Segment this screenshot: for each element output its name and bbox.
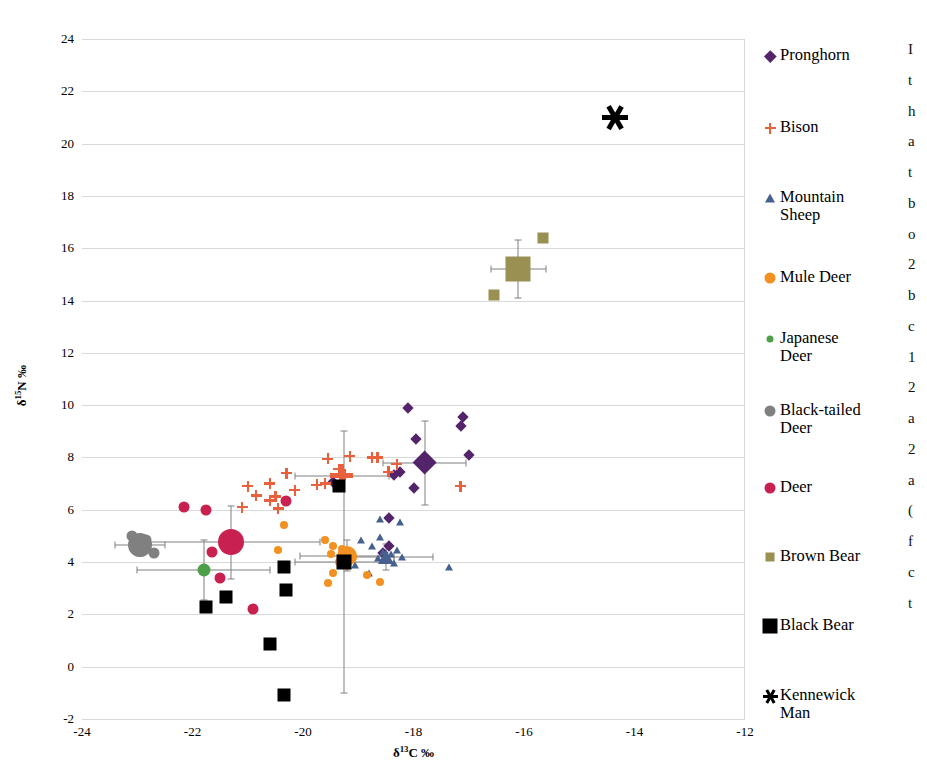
legend-label: Bison [780, 118, 819, 136]
body-text-line: 2 [908, 249, 927, 280]
data-point-mule-deer [324, 579, 332, 587]
data-point-mountain-sheep [398, 553, 406, 560]
data-point-mule-deer [329, 542, 337, 550]
data-point-mountain-sheep [396, 518, 404, 525]
error-bar-cap [319, 539, 320, 546]
error-bar-cap [200, 539, 207, 540]
gridline-y [82, 667, 745, 668]
data-point-mule-deer [321, 536, 329, 544]
data-point-mountain-sheep [445, 564, 453, 571]
data-point-deer [206, 546, 217, 557]
error-bar-cap [294, 559, 295, 566]
y-tick-label: 20 [61, 136, 74, 152]
legend-swatch [762, 616, 778, 635]
data-point-deer [179, 502, 190, 513]
gridline-y [82, 39, 745, 40]
mean-marker-japanese-deer [197, 563, 210, 576]
body-text-line: t [908, 588, 927, 619]
legend-item-japanese-deer[interactable]: Japanese Deer [762, 329, 839, 366]
body-text-line: 2 [908, 434, 927, 465]
gridline-y [82, 144, 745, 145]
marker-square [763, 619, 778, 634]
y-tick-label: 14 [61, 293, 74, 309]
body-text-line: c [908, 557, 927, 588]
legend-label: Pronghorn [780, 46, 850, 64]
legend-item-black-tailed-deer[interactable]: Black-tailed Deer [762, 401, 861, 438]
y-axis-ticks: 242220181614121086420-2 [38, 39, 74, 719]
legend-swatch [762, 118, 778, 137]
x-tick-label: -14 [626, 724, 643, 740]
legend-item-mountain-sheep[interactable]: Mountain Sheep [762, 188, 844, 225]
marker-circle [767, 336, 774, 343]
error-bar-cap [432, 553, 433, 560]
legend-label: Black-tailed Deer [780, 401, 861, 438]
gridline-y [82, 405, 745, 406]
y-tick-label: 2 [68, 606, 75, 622]
gridline-y [82, 614, 745, 615]
legend-swatch [762, 478, 778, 497]
legend-item-kennewick-man[interactable]: Kennewick Man [762, 686, 855, 723]
legend-label: Deer [780, 478, 812, 496]
legend-swatch [762, 329, 778, 348]
gridline-y [82, 248, 745, 249]
gridline-y [82, 457, 745, 458]
data-point-black-bear [200, 600, 213, 613]
data-point-mountain-sheep [357, 536, 365, 543]
marker-square [766, 553, 775, 562]
gridline-y [82, 562, 745, 563]
error-bar-cap [228, 505, 235, 506]
plot-right-border [744, 39, 745, 719]
data-point-black-bear [219, 591, 232, 604]
body-text-line: a [908, 126, 927, 157]
body-text-line: h [908, 96, 927, 127]
figure-root: δ15N ‰ 242220181614121086420-2 -24-22-20… [0, 0, 927, 782]
body-text-line: ( [908, 495, 927, 526]
plot-area [82, 39, 745, 719]
legend-item-deer[interactable]: Deer [762, 478, 812, 497]
legend-swatch [762, 686, 778, 705]
error-bar-cap [269, 566, 270, 573]
gridline-y [82, 719, 745, 720]
mean-marker-mountain-sheep [378, 550, 394, 564]
legend-swatch [762, 46, 778, 65]
marker-circle [765, 406, 776, 417]
legend-swatch [762, 268, 778, 287]
legend-item-mule-deer[interactable]: Mule Deer [762, 268, 851, 287]
legend-label: Brown Bear [780, 547, 860, 565]
gridline-y [82, 353, 745, 354]
data-point-mule-deer [363, 571, 371, 579]
body-text-line: 1 [908, 342, 927, 373]
data-point-black-bear [277, 561, 290, 574]
data-point-brown-bear [538, 232, 549, 243]
body-text-line: 2 [908, 372, 927, 403]
error-bar-cap [383, 459, 384, 466]
error-bar-cap [294, 472, 295, 479]
error-bar-cap [465, 459, 466, 466]
mean-marker-black-bear [337, 555, 352, 570]
gridline-y [82, 91, 745, 92]
gridline-y [82, 196, 745, 197]
legend-item-brown-bear[interactable]: Brown Bear [762, 547, 860, 566]
data-point-mule-deer [280, 521, 288, 529]
legend-swatch [762, 547, 778, 566]
y-tick-label: 0 [68, 659, 75, 675]
legend-item-pronghorn[interactable]: Pronghorn [762, 46, 850, 65]
x-axis-ticks: -24-22-20-18-16-14-12 [82, 724, 745, 746]
legend-label: Kennewick Man [780, 686, 855, 723]
y-tick-label: 6 [68, 502, 75, 518]
legend-label: Black Bear [780, 616, 854, 634]
error-bar-cap [546, 266, 547, 273]
error-bar-cap [341, 431, 348, 432]
y-tick-label: 10 [61, 397, 74, 413]
y-tick-label: 4 [68, 554, 75, 570]
legend-label: Mountain Sheep [780, 188, 844, 225]
mean-marker-deer [218, 529, 244, 555]
legend-item-bison[interactable]: Bison [762, 118, 819, 137]
body-text-line: f [908, 526, 927, 557]
x-tick-label: -12 [736, 724, 753, 740]
legend-item-black-bear[interactable]: Black Bear [762, 616, 854, 635]
error-bar-cap [228, 579, 235, 580]
body-text-line: b [908, 188, 927, 219]
legend-swatch [762, 188, 778, 207]
body-text-line: a [908, 403, 927, 434]
